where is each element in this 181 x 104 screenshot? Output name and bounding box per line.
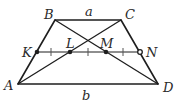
label-n: N xyxy=(145,45,158,60)
label-k: K xyxy=(21,45,33,60)
label-d: D xyxy=(162,80,174,95)
label-c: C xyxy=(125,7,135,22)
trapezoid-diagram: B a C K L M N A D b xyxy=(0,0,181,104)
label-a-vertex: A xyxy=(3,78,13,93)
point-n xyxy=(138,50,143,55)
label-m: M xyxy=(99,36,114,51)
label-a: a xyxy=(85,4,93,19)
label-b-side: b xyxy=(82,88,90,103)
label-l: L xyxy=(65,36,75,51)
point-k xyxy=(35,50,40,55)
label-b: B xyxy=(43,7,54,22)
